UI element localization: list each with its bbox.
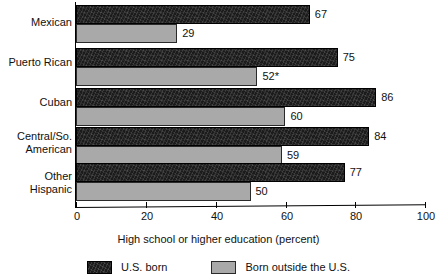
- legend-swatch-us-born: [87, 261, 112, 274]
- x-tick-label-0: 0: [74, 210, 80, 222]
- legend-item-foreign-born: Born outside the U.S.: [211, 261, 350, 274]
- chart-legend: U.S. born Born outside the U.S.: [0, 258, 437, 276]
- bar-puerto-rican-us-born: [76, 48, 338, 67]
- x-tick-label-80: 80: [350, 210, 362, 222]
- x-tick-label-40: 40: [211, 210, 223, 222]
- bar-group-mexican: 67 29: [76, 5, 425, 43]
- y-axis-line: [75, 2, 76, 208]
- bar-chart-figure: Mexican Puerto Rican Cuban Central/So. A…: [0, 0, 437, 280]
- category-label-cuban: Cuban: [0, 96, 72, 109]
- category-label-puerto-rican: Puerto Rican: [0, 56, 72, 69]
- bar-group-other-hispanic: 77 50: [76, 163, 425, 201]
- category-axis-labels: Mexican Puerto Rican Cuban Central/So. A…: [0, 4, 72, 204]
- legend-label-us-born: U.S. born: [121, 261, 167, 273]
- category-label-central-so-american: Central/So. American: [0, 130, 72, 155]
- x-tick-20: [146, 202, 147, 208]
- bar-value-other-hispanic-foreign-born: 50: [256, 182, 268, 201]
- x-tick-80: [355, 202, 356, 208]
- x-axis-line: [75, 204, 426, 208]
- bar-value-mexican-us-born: 67: [315, 5, 327, 24]
- legend-item-us-born: U.S. born: [87, 261, 167, 274]
- bar-other-hispanic-us-born: [76, 163, 345, 182]
- bar-value-other-hispanic-us-born: 77: [350, 163, 362, 182]
- category-label-other-hispanic: Other Hispanic: [0, 170, 72, 195]
- x-tick-label-100: 100: [417, 210, 435, 222]
- bar-cuban-foreign-born: [76, 107, 285, 126]
- bar-value-mexican-foreign-born: 29: [182, 24, 194, 43]
- x-tick-0: [76, 202, 77, 208]
- x-tick-60: [286, 202, 287, 208]
- bar-value-cuban-us-born: 86: [381, 88, 393, 107]
- x-axis-title: High school or higher education (percent…: [0, 233, 437, 245]
- bar-other-hispanic-foreign-born: [76, 182, 251, 201]
- bar-value-cuban-foreign-born: 60: [290, 107, 302, 126]
- bar-mexican-us-born: [76, 5, 310, 24]
- bar-value-central-so-american-us-born: 84: [374, 127, 386, 146]
- bar-group-central-so-american: 84 59: [76, 127, 425, 165]
- bar-mexican-foreign-born: [76, 24, 177, 43]
- category-label-mexican: Mexican: [0, 16, 72, 29]
- bar-cuban-us-born: [76, 88, 376, 107]
- bar-value-puerto-rican-us-born: 75: [343, 48, 355, 67]
- x-tick-label-20: 20: [141, 210, 153, 222]
- x-tick-40: [216, 202, 217, 208]
- bar-group-cuban: 86 60: [76, 88, 425, 126]
- plot-area: 67 29 75 52* 86 60 84 59 77 50: [76, 4, 425, 204]
- bar-group-puerto-rican: 75 52*: [76, 48, 425, 86]
- legend-label-foreign-born: Born outside the U.S.: [245, 261, 350, 273]
- bar-puerto-rican-foreign-born: [76, 67, 257, 86]
- x-tick-label-60: 60: [281, 210, 293, 222]
- bar-value-puerto-rican-foreign-born: 52*: [262, 67, 279, 86]
- bar-central-so-american-us-born: [76, 127, 369, 146]
- legend-swatch-foreign-born: [211, 261, 236, 274]
- x-tick-100: [425, 202, 426, 208]
